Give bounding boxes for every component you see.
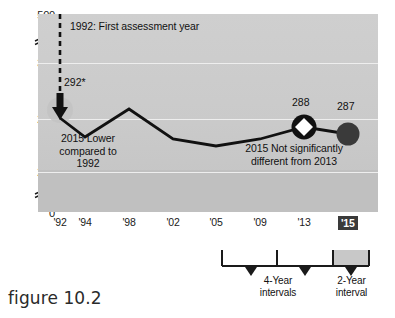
figure-container: 500 300 290 280 0 <box>0 0 395 318</box>
point-label-2013: 288 <box>292 96 310 108</box>
x-tick-02: '02 <box>161 216 185 228</box>
series-layer <box>38 14 378 212</box>
x-tick-98: '98 <box>117 216 141 228</box>
annotation-first-assessment: 1992: First assessment year <box>70 20 199 33</box>
figure-caption: figure 10.2 <box>8 288 102 308</box>
x-tick-92: '92 <box>48 216 72 228</box>
x-tick-05: '05 <box>204 216 228 228</box>
interval-legend: 4-Year intervals 2-Year interval <box>215 248 380 308</box>
annotation-lower-than-1992: 2015 Lower compared to 1992 <box>42 132 134 170</box>
marker-diamond-2013 <box>292 115 317 140</box>
point-label-2015: 287 <box>337 100 355 112</box>
legend-label-2-year: 2-Year interval <box>323 275 380 298</box>
legend-label-4-year: 4-Year intervals <box>248 275 308 298</box>
plot-area: 1992: First assessment year 292* 2015 Lo… <box>38 14 378 212</box>
annotation-not-different-2013: 2015 Not significantly different from 20… <box>218 142 370 167</box>
x-tick-94: '94 <box>73 216 97 228</box>
x-tick-09: '09 <box>248 216 272 228</box>
x-tick-15-highlighted: '15 <box>338 216 358 230</box>
x-tick-13: '13 <box>292 216 316 228</box>
point-label-1992: 292* <box>64 76 86 88</box>
